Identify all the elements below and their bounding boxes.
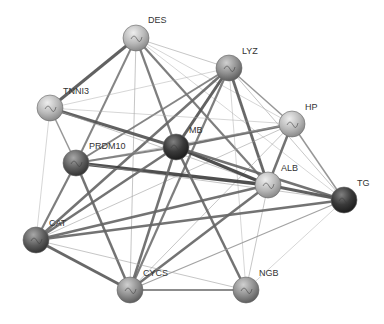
node-label: MB [189, 125, 203, 135]
node-tg[interactable]: TG [331, 178, 370, 213]
edge-des-cycs[interactable] [130, 38, 136, 290]
edge-des-tnni3[interactable] [50, 38, 136, 108]
node-label: DES [148, 15, 167, 25]
node-tnni3[interactable]: TNNI3 [37, 86, 89, 121]
protein-network-graph: DESLYZTNNI3HPPRDM10MBALBTGCATCYCSNGB [0, 0, 384, 324]
node-cycs[interactable]: CYCS [117, 268, 168, 303]
node-label: CYCS [143, 268, 168, 278]
node-label: TG [357, 178, 370, 188]
edge-tnni3-cat[interactable] [36, 108, 50, 240]
node-label: TNNI3 [63, 86, 89, 96]
edge-cat-cycs[interactable] [36, 240, 130, 290]
node-label: CAT [49, 218, 67, 228]
node-label: PRDM10 [89, 141, 126, 151]
edge-hp-tg[interactable] [292, 124, 344, 200]
node-label: NGB [259, 268, 279, 278]
edge-tnni3-hp[interactable] [50, 108, 292, 124]
node-label: LYZ [242, 46, 258, 56]
node-lyz[interactable]: LYZ [216, 46, 258, 81]
edge-des-mb[interactable] [136, 38, 176, 147]
node-label: ALB [281, 163, 298, 173]
edge-lyz-ngb[interactable] [229, 68, 246, 290]
node-ngb[interactable]: NGB [233, 268, 279, 303]
node-label: HP [305, 102, 318, 112]
node-prdm10[interactable]: PRDM10 [63, 141, 126, 176]
edge-des-alb[interactable] [136, 38, 268, 185]
node-hp[interactable]: HP [279, 102, 318, 137]
